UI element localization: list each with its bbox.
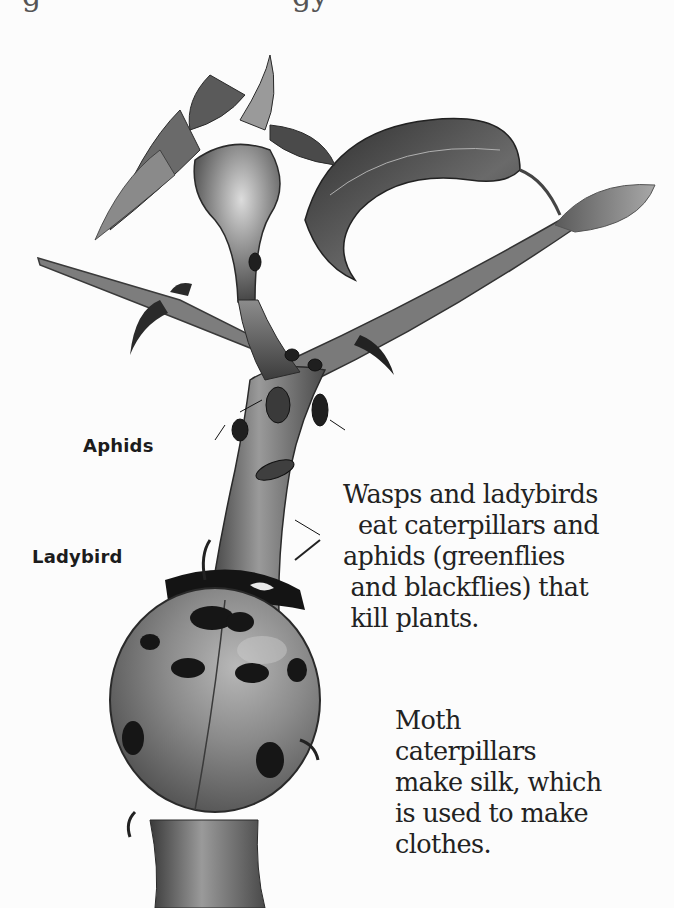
left-branch [38,258,260,355]
caption-line: eat caterpillars and [343,510,599,540]
caption-line: kill plants. [343,603,479,633]
book-page: g gy [0,0,674,908]
predators-caption: Wasps and ladybirds eat caterpillars and… [343,479,599,634]
silk-caption: Moth caterpillars make silk, which is us… [395,705,602,860]
caption-line: Wasps and ladybirds [343,479,598,509]
caption-line: clothes. [395,829,491,859]
ladybird [110,540,320,837]
large-leaf [305,119,520,280]
aphids-label: Aphids [83,435,154,456]
caption-line: make silk, which [395,767,602,797]
small-leaf [555,185,655,233]
rosehip [194,144,280,302]
caption-line: is used to make [395,798,588,828]
lower-stem [150,820,265,908]
caption-line: caterpillars [395,736,536,766]
caption-line: aphids (greenflies [343,541,565,571]
caption-line: and blackflies) that [343,572,588,602]
caption-line: Moth [395,705,461,735]
ladybird-label: Ladybird [32,546,123,567]
